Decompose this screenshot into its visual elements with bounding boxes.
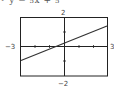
x-max-label: 3: [110, 43, 114, 51]
y-max-label: 2: [61, 9, 65, 17]
y-min-label: −2: [58, 80, 68, 88]
x-min-label: −3: [5, 43, 15, 51]
graph: 2 −2 −3 3: [0, 0, 114, 90]
